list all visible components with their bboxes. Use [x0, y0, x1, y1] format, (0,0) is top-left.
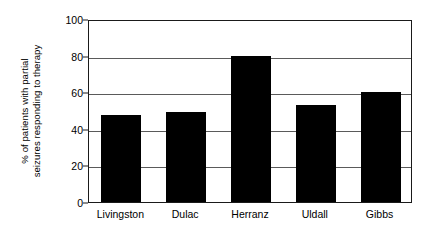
bar: [231, 56, 271, 202]
y-axis-tick-label: 60: [43, 88, 83, 99]
y-axis-tick-label: 80: [43, 51, 83, 62]
y-axis-tick-label: 20: [43, 161, 83, 172]
bar: [361, 92, 401, 202]
bar-chart-figure: % of patients with partial seizures resp…: [0, 0, 429, 244]
bar: [101, 115, 141, 202]
y-axis-tick-label: 40: [43, 125, 83, 136]
bar: [296, 105, 336, 202]
y-axis-tick-label: 0: [43, 198, 83, 209]
y-axis-title-line-2: seizures responding to therapy: [31, 45, 43, 178]
x-axis-category-label: Livingston: [88, 208, 153, 220]
x-axis-category-label: Dulac: [153, 208, 218, 220]
y-axis-title: % of patients with partial seizures resp…: [14, 16, 48, 206]
x-axis-category-label: Uldall: [282, 208, 347, 220]
x-axis-category-label: Herranz: [218, 208, 283, 220]
y-axis-tick-label: 100: [43, 15, 83, 26]
x-axis-category-label: Gibbs: [347, 208, 412, 220]
y-axis-title-line-1: % of patients with partial: [19, 58, 31, 163]
plot-area: [88, 20, 412, 203]
bar: [166, 112, 206, 202]
